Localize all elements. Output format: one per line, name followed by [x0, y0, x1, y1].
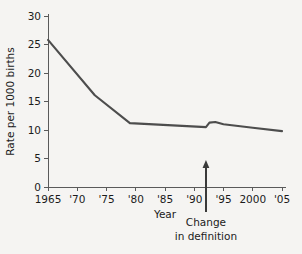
chart-container: 051015202530 1965'70'75'80'85'90'952000'… — [0, 0, 302, 254]
x-tick-label: '90 — [186, 193, 202, 205]
x-tick-label: '80 — [128, 193, 144, 205]
x-tick-label: '75 — [98, 193, 114, 205]
y-tick-label: 25 — [28, 38, 41, 50]
annotation-text-line-1: Change — [186, 216, 226, 228]
x-axis-title: Year — [153, 208, 177, 220]
y-tick-label: 5 — [34, 152, 41, 164]
y-tick-label: 20 — [28, 67, 41, 79]
x-tick-label: '85 — [157, 193, 173, 205]
chart-background — [0, 0, 302, 254]
x-tick-label: '05 — [274, 193, 290, 205]
y-tick-label: 10 — [28, 124, 41, 136]
x-tick-label: 2000 — [239, 193, 266, 205]
y-tick-label: 15 — [28, 95, 41, 107]
y-tick-label: 0 — [34, 181, 41, 193]
x-tick-label: 1965 — [35, 193, 62, 205]
annotation-text-line-2: in definition — [175, 230, 237, 242]
y-axis-title: Rate per 1000 births — [4, 47, 16, 155]
x-tick-label: '95 — [215, 193, 231, 205]
line-chart: 051015202530 1965'70'75'80'85'90'952000'… — [0, 0, 302, 254]
x-tick-label: '70 — [69, 193, 85, 205]
y-tick-label: 30 — [28, 10, 41, 22]
